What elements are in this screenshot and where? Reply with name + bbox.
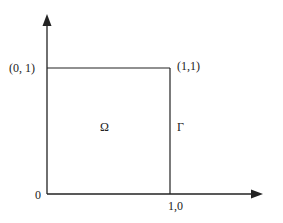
label-domain-omega: Ω xyxy=(100,121,109,133)
label-boundary-gamma: Γ xyxy=(177,121,184,133)
y-axis-arrowhead-icon xyxy=(43,14,52,26)
x-axis-arrowhead-icon xyxy=(251,190,263,199)
label-top-left-corner: (0, 1) xyxy=(9,62,35,74)
label-bottom-right-corner: 1,0 xyxy=(168,200,183,212)
label-origin: 0 xyxy=(35,189,41,201)
label-top-right-corner: (1,1) xyxy=(177,60,200,72)
diagram-canvas xyxy=(0,0,283,223)
